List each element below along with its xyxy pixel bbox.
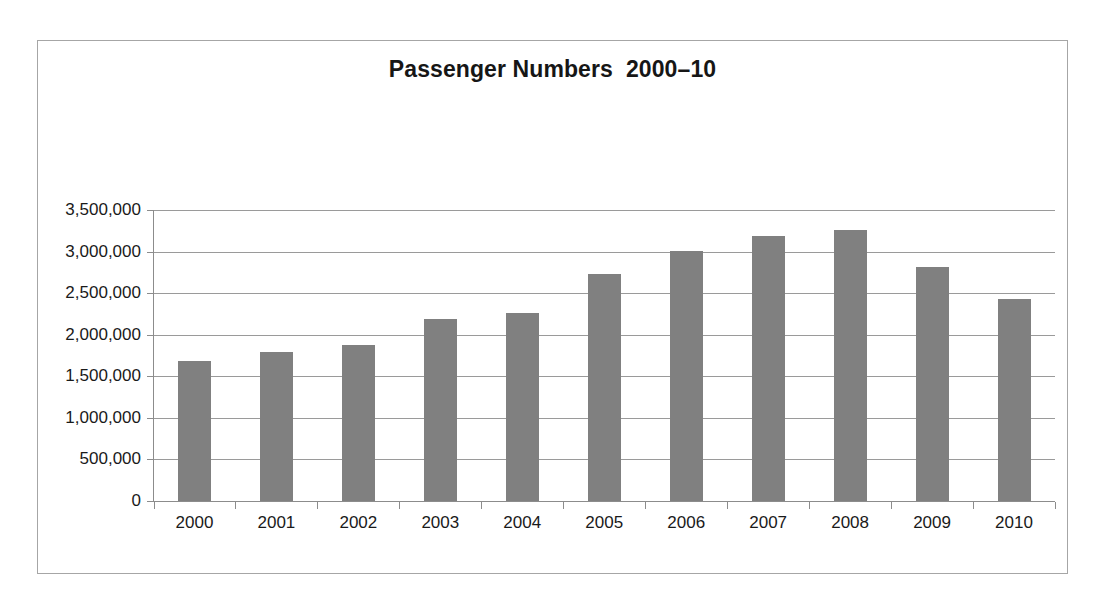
y-axis-label: 3,500,000 xyxy=(41,200,141,220)
bar xyxy=(424,319,457,501)
bar xyxy=(342,345,375,501)
bar xyxy=(506,313,539,501)
x-axis-tick xyxy=(235,502,236,509)
x-axis-label: 2005 xyxy=(559,513,649,533)
x-axis-label: 2001 xyxy=(231,513,321,533)
x-axis-line xyxy=(153,501,1055,502)
x-axis-tick xyxy=(891,502,892,509)
chart-frame: Passenger Numbers 2000–10 0500,0001,000,… xyxy=(37,40,1068,574)
bar xyxy=(670,251,703,501)
y-axis-label: 0 xyxy=(41,491,141,511)
bars-layer xyxy=(154,210,1056,501)
bar xyxy=(260,352,293,501)
y-axis-tick xyxy=(147,293,153,294)
x-axis-label: 2007 xyxy=(723,513,813,533)
x-axis-label: 2008 xyxy=(805,513,895,533)
x-axis-tick xyxy=(727,502,728,509)
bar xyxy=(916,267,949,501)
y-axis-label: 2,500,000 xyxy=(41,283,141,303)
x-axis-tick xyxy=(563,502,564,509)
y-axis-tick xyxy=(147,376,153,377)
y-axis-labels: 0500,0001,000,0001,500,0002,000,0002,500… xyxy=(38,41,141,573)
y-axis-tick xyxy=(147,501,153,502)
x-axis-label: 2006 xyxy=(641,513,731,533)
x-axis-label: 2004 xyxy=(477,513,567,533)
bar xyxy=(588,274,621,501)
x-axis-tick xyxy=(399,502,400,509)
x-axis-tick xyxy=(645,502,646,509)
x-axis-label: 2010 xyxy=(969,513,1059,533)
y-axis-label: 2,000,000 xyxy=(41,325,141,345)
x-axis-tick xyxy=(973,502,974,509)
y-axis-tick xyxy=(147,210,153,211)
x-axis-label: 2002 xyxy=(313,513,403,533)
y-axis-label: 1,500,000 xyxy=(41,366,141,386)
y-axis-tick xyxy=(147,418,153,419)
y-axis-tick xyxy=(147,459,153,460)
chart-title: Passenger Numbers 2000–10 xyxy=(38,56,1067,83)
y-axis-label: 500,000 xyxy=(41,449,141,469)
x-axis-tick xyxy=(317,502,318,509)
x-axis-tick xyxy=(1055,502,1056,509)
x-axis-tick xyxy=(809,502,810,509)
x-axis-tick xyxy=(481,502,482,509)
x-axis-tick xyxy=(154,502,155,509)
y-axis-tick xyxy=(147,252,153,253)
bar xyxy=(998,299,1031,501)
y-axis-tick xyxy=(147,335,153,336)
bar xyxy=(178,361,211,501)
bar xyxy=(752,236,785,501)
x-axis-label: 2000 xyxy=(149,513,239,533)
y-axis-label: 1,000,000 xyxy=(41,408,141,428)
x-axis-label: 2009 xyxy=(887,513,977,533)
y-axis-label: 3,000,000 xyxy=(41,242,141,262)
x-axis-label: 2003 xyxy=(395,513,485,533)
bar xyxy=(834,230,867,501)
